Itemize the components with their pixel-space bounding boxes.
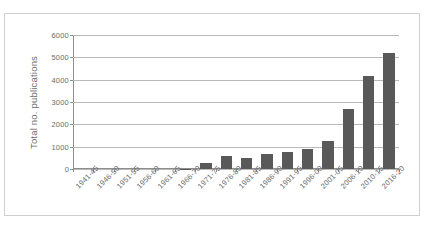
bar [261,154,272,169]
bar [343,109,354,169]
x-axis-label-slot: 1946-50 [94,172,114,216]
chart-page: Total no. publications 01000200030004000… [0,0,425,225]
x-axis-label-slot: 1961-65 [156,172,176,216]
y-axis-title-label: Total no. publications [29,55,40,148]
bar-slot [176,35,196,169]
x-axis-label-slot: 2010-15 [359,172,379,216]
bar-slot [155,35,175,169]
bar [363,76,374,169]
x-axis-label-slot: 1976-80 [217,172,237,216]
x-axis-label-slot: 1981-85 [237,172,257,216]
bar-slot [74,35,94,169]
x-axis-label-slot: 2006-10 [339,172,359,216]
x-axis-label-slot: 1986-90 [257,172,277,216]
x-axis-label-slot: 1966-70 [176,172,196,216]
y-axis-title: Total no. publications [27,35,41,169]
bar-slot [297,35,317,169]
x-axis-label-slot: 2016-20 [380,172,400,216]
bar-slot [94,35,114,169]
bar-slot [196,35,216,169]
y-axis-tick-label: 3000 [52,98,70,107]
bar [302,149,313,169]
bar [322,141,333,169]
y-axis-tick-label: 4000 [52,75,70,84]
bar-slot [277,35,297,169]
x-axis-label-slot: 1991-95 [278,172,298,216]
x-axis-label-slot: 1996-00 [298,172,318,216]
bar-slot [257,35,277,169]
bar [241,158,252,169]
x-axis-label-slot: 1971-75 [196,172,216,216]
x-axis-labels: 1941-451946-501951-551956-601961-651966-… [74,172,400,216]
y-axis-tick-mark [70,124,73,125]
y-axis-tick-mark [70,57,73,58]
y-axis-tick-mark [70,102,73,103]
chart-frame: Total no. publications 01000200030004000… [4,13,420,216]
x-axis-label-slot: 1951-55 [115,172,135,216]
bar-slot [237,35,257,169]
clipped-caption-text [0,0,425,3]
bar-slot [115,35,135,169]
y-axis-tick-label: 5000 [52,53,70,62]
y-axis-tick-mark [70,147,73,148]
y-axis-tick-mark [70,35,73,36]
x-axis-label-slot: 2001-05 [319,172,339,216]
y-axis-tick-label: 6000 [52,31,70,40]
bar-series [74,35,399,169]
bar [383,53,394,169]
bar-slot [135,35,155,169]
bar [282,152,293,169]
y-axis-tick-label: 1000 [52,142,70,151]
bar-slot [358,35,378,169]
bar-slot [216,35,236,169]
bar-slot [338,35,358,169]
y-axis-tick-mark [70,80,73,81]
x-axis-label-slot: 1956-60 [135,172,155,216]
x-axis-label-slot: 1941-45 [74,172,94,216]
bar-slot [379,35,399,169]
bar-slot [318,35,338,169]
y-axis-tick-label: 2000 [52,120,70,129]
y-axis-tick-label: 0 [65,165,69,174]
plot-area: 0100020003000400050006000 [73,35,399,169]
bar [221,156,232,169]
